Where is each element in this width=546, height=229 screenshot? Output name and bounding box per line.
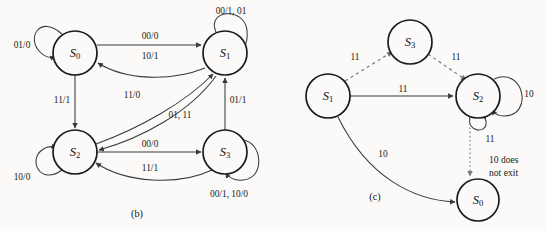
node-b-S0-sub: 0 — [76, 51, 80, 61]
note-c-line2: not exit — [489, 167, 518, 178]
caption-c: (c) — [369, 191, 380, 203]
label-c-loop-S2-11: 11 — [485, 134, 494, 144]
label-c-S3-S2: 11 — [451, 52, 460, 62]
node-c-S3[interactable]: S3 — [388, 20, 432, 64]
node-b-S1[interactable]: S1 — [203, 31, 247, 75]
node-c-S1[interactable]: S1 — [306, 74, 350, 118]
state-diagram-canvas: S0 S1 S2 S3 01/0 — [0, 0, 546, 229]
caption-b: (b) — [131, 208, 143, 220]
label-c-S1-S3: 11 — [350, 52, 359, 62]
diagram-c: S3 S1 S2 S0 10 — [306, 20, 534, 221]
node-b-S2[interactable]: S2 — [53, 130, 97, 174]
edge-c-S1-S0 — [338, 117, 455, 202]
label-b-S2-S1: 11/0 — [124, 90, 141, 100]
label-b-S1-S0: 10/1 — [142, 51, 159, 61]
node-b-S1-sub: 1 — [226, 51, 230, 61]
label-c-loop-S2-10: 10 — [524, 89, 534, 99]
edge-b-S1-S0 — [98, 63, 205, 77]
edge-b-S2-S1 — [96, 74, 213, 144]
label-b-S3-S2: 11/1 — [142, 163, 159, 173]
figure-container: S0 S1 S2 S3 01/0 — [0, 0, 546, 229]
note-c-line1: 10 does — [489, 154, 519, 165]
node-c-S2-sub: 2 — [479, 94, 483, 104]
node-b-S0[interactable]: S0 — [53, 31, 97, 75]
node-b-S2-sub: 2 — [76, 150, 80, 160]
node-c-S3-sub: 3 — [411, 40, 415, 50]
label-b-S2-S3: 00/0 — [142, 139, 159, 149]
label-b-S0-S1: 00/0 — [142, 31, 159, 41]
label-b-loop-S1: 00/1, 01 — [216, 6, 247, 16]
node-c-S0[interactable]: S0 — [457, 179, 499, 221]
label-c-S1-S0: 10 — [378, 149, 388, 159]
node-b-S3[interactable]: S3 — [203, 130, 247, 174]
label-b-S1-S2: 01, 11 — [168, 110, 191, 120]
label-c-S1-S2: 11 — [398, 84, 407, 94]
label-b-S0-S2: 11/1 — [54, 95, 71, 105]
label-b-loop-S0: 01/0 — [14, 40, 31, 50]
node-c-S2[interactable]: S2 — [456, 74, 500, 118]
node-c-S0-sub: 0 — [479, 198, 483, 208]
label-b-S3-S1: 01/1 — [230, 95, 247, 105]
label-b-loop-S2: 10/0 — [14, 172, 31, 182]
diagram-b: S0 S1 S2 S3 01/0 — [14, 6, 259, 220]
node-c-S1-sub: 1 — [329, 94, 333, 104]
node-b-S3-sub: 3 — [226, 150, 230, 160]
label-b-loop-S3: 00/1, 10/0 — [210, 189, 248, 199]
